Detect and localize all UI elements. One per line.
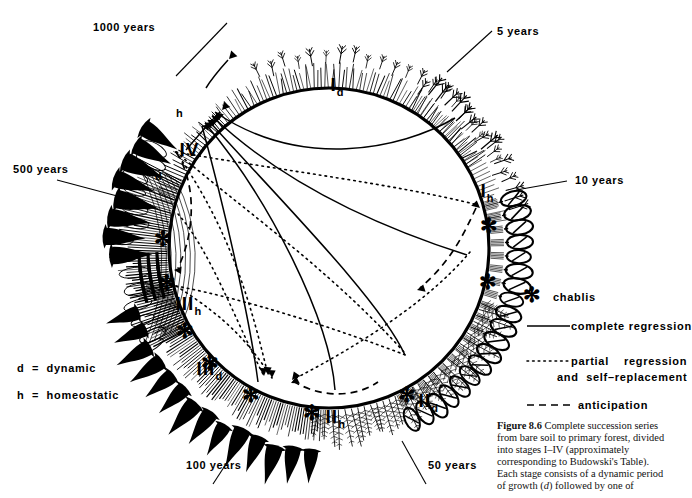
legend-anticipation-label: anticipation — [578, 399, 648, 411]
legend-samples — [527, 326, 572, 405]
stage-roman-IV: IV — [180, 139, 200, 160]
ring-forest-zone — [103, 278, 324, 488]
leader-1000 — [176, 23, 227, 76]
year-label-50: 50 years — [428, 459, 477, 471]
stage-roman-IIh: II — [326, 406, 339, 427]
chablis-marker-8: ✻ — [479, 270, 497, 293]
leader-50 — [402, 441, 426, 484]
year-label-1000: 1000 years — [93, 21, 155, 33]
complete-regression-paths — [202, 112, 467, 390]
legend-partial-regression-label-line1: partial regression — [571, 355, 687, 367]
stage-roman-IIIh: III — [176, 293, 195, 314]
stage-sub-IIId: d — [215, 370, 222, 382]
chablis-marker-5: ✻ — [242, 383, 260, 406]
year-label-100: 100 years — [186, 459, 242, 471]
stage-label-Id: Id — [318, 52, 344, 98]
stage-sub-IIIh: h — [194, 305, 201, 317]
figure-caption: Figure 8.6 Complete succession series fr… — [497, 420, 671, 491]
legend-chablis-icon: ✻ — [523, 283, 541, 307]
stage-sub-IId: d — [431, 402, 438, 414]
stage-label-Ih: Ih — [468, 158, 494, 204]
stage-label-IIh: IIh — [313, 384, 345, 430]
stage-sub-Id: d — [337, 86, 344, 98]
partial-regression-arrowheads — [259, 201, 480, 380]
caption-figure-number: Figure 8.6 — [497, 420, 542, 431]
stage-roman-IIId: III — [197, 358, 216, 379]
stage-label-IV: IV — [167, 117, 200, 163]
key-homeostatic: h = homeostatic — [17, 389, 119, 401]
phase-mark-h: h — [176, 107, 183, 119]
chablis-marker-9: ✻ — [480, 214, 498, 237]
legend-complete-regression-label: complete regression — [571, 320, 692, 332]
legend-partial-regression-label-line2: and self–replacement — [557, 371, 687, 383]
stage-label-IId: IId — [406, 368, 438, 414]
year-label-5: 5 years — [497, 25, 539, 37]
stage-roman-IId: II — [419, 390, 432, 411]
leader-5 — [447, 31, 492, 72]
phase-mark-d: d — [155, 170, 162, 182]
year-label-10: 10 years — [575, 174, 624, 186]
year-label-500: 500 years — [13, 163, 69, 175]
legend-chablis-label: chablis — [553, 291, 596, 303]
key-dynamic: d = dynamic — [17, 362, 96, 374]
stage-label-IIIh: IIIh — [163, 271, 201, 317]
chablis-marker-1: ✻ — [154, 227, 172, 250]
stage-sub-IIh: h — [338, 418, 345, 430]
stage-sub-Ih: h — [487, 192, 494, 204]
stage-label-IIId: IIId — [184, 336, 222, 382]
